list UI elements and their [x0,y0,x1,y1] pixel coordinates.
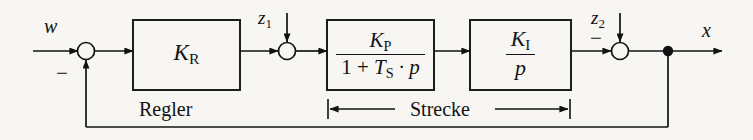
plant-lag-numerator-subscript: P [384,38,392,54]
reference-signal-label: w [44,16,57,36]
plant-section-label: Strecke [404,99,476,119]
plant-lag-fraction: KP 1 + TS · p [336,30,425,81]
plant-lag-time-constant-subscript: S [386,65,394,81]
plant-lag-time-constant-base: T [374,55,386,79]
controller-gain-subscript: R [189,50,199,67]
disturbance2-minus-sign: − [590,28,602,49]
plant-integrator-numerator-subscript: I [525,37,530,53]
plant-integrator-denominator: p [506,54,536,79]
disturbance1-label: z1 [258,8,272,31]
plant-lag-denominator: 1 + TS · p [336,54,425,80]
output-signal-label: x [702,20,711,40]
disturbance2-subscript: 2 [598,16,604,31]
plant-lag-denominator-prefix: 1 + [341,55,374,79]
plant-integrator-fraction: KI p [506,28,536,79]
plant-integrator-numerator: KI [506,28,536,54]
controller-block-label: KR [133,41,240,67]
disturbance1-subscript: 1 [265,16,271,31]
controller-gain-base: K [174,40,189,65]
control-loop-diagram: w x − − z1 z2 KR KP 1 + TS · p KI p Regl… [0,0,753,140]
summing-junction-z1 [279,43,296,60]
plant-integrator-block-label: KI p [470,28,571,79]
controller-section-label: Regler [139,99,192,119]
plant-integrator-numerator-base: K [511,26,526,51]
plant-lag-numerator: KP [336,30,425,54]
plant-lag-numerator-base: K [370,28,384,52]
summing-junction-z2 [612,43,629,60]
plant-lag-block-label: KP 1 + TS · p [327,30,434,81]
output-branch-dot [663,46,673,56]
summing-junction-error [78,43,95,60]
disturbance2-label: z2 [591,8,605,31]
feedback-minus-sign: − [56,63,68,84]
plant-lag-denominator-suffix: · p [394,55,420,79]
